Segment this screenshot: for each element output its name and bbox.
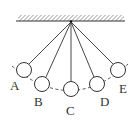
pendulum-diagram: A B C D E — [0, 0, 138, 124]
bob-e — [111, 63, 126, 78]
strings — [29, 22, 113, 81]
label-d: D — [100, 94, 109, 109]
label-b: B — [34, 94, 43, 109]
label-e: E — [119, 81, 127, 96]
label-c: C — [66, 103, 75, 118]
label-a: A — [10, 78, 20, 93]
ceiling — [16, 15, 125, 21]
bob-a — [17, 63, 32, 78]
bob-c — [64, 82, 79, 97]
bob-b — [35, 77, 50, 92]
bob-d — [90, 77, 105, 92]
